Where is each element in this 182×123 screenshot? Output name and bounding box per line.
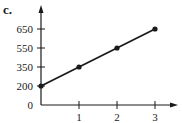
point-3-650 bbox=[152, 26, 157, 31]
y-tick-650: 650 bbox=[17, 23, 34, 35]
point-1-350 bbox=[76, 64, 81, 69]
data-line bbox=[41, 29, 155, 86]
point-2-550 bbox=[114, 45, 119, 50]
x-tick-3: 3 bbox=[152, 111, 158, 123]
y-tick-550: 550 bbox=[17, 42, 34, 54]
point-0-200 bbox=[38, 83, 43, 88]
x-axis-arrow-icon bbox=[170, 103, 178, 108]
y-tick-200: 200 bbox=[17, 80, 34, 92]
panel-label: c. bbox=[3, 2, 12, 18]
x-tick-1: 1 bbox=[76, 111, 82, 123]
y-tick-labels: 650 550 350 200 0 bbox=[17, 23, 34, 111]
y-tick-350: 350 bbox=[17, 61, 34, 73]
chart: c. 650 550 350 200 0 1 2 bbox=[0, 0, 182, 123]
x-tick-2: 2 bbox=[114, 111, 120, 123]
y-tick-0: 0 bbox=[28, 99, 34, 111]
line-chart: 650 550 350 200 0 1 2 3 bbox=[0, 0, 182, 123]
y-axis-arrow-icon bbox=[39, 5, 44, 13]
x-tick-labels: 1 2 3 bbox=[76, 111, 158, 123]
